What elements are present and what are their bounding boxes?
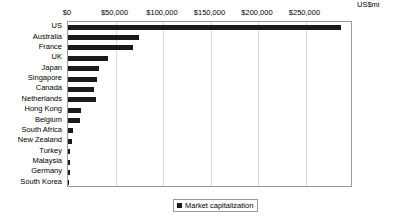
y-tick-label: US xyxy=(52,22,62,30)
bar-chart: $0$50,000$100,000$150,000$200,000$250,00… xyxy=(0,0,393,220)
legend-swatch-market-capitalization xyxy=(177,203,182,208)
y-tick-label: Australia xyxy=(33,33,62,41)
y-tick-label: Netherlands xyxy=(22,95,62,103)
x-tick-label: $150,000 xyxy=(194,8,225,18)
bar xyxy=(68,149,70,154)
chart-legend: Market capitalization xyxy=(173,199,258,212)
y-tick-label: Japan xyxy=(42,64,62,72)
x-tick-label: $100,000 xyxy=(146,8,177,18)
y-axis-category-labels: USAustraliaFranceUKJapanSingaporeCanadaN… xyxy=(0,21,64,187)
y-tick-label: Malaysia xyxy=(32,157,62,165)
x-axis-unit-label: US$mi xyxy=(357,0,380,10)
bar xyxy=(68,139,72,144)
y-tick-label: South Korea xyxy=(20,178,62,186)
bar xyxy=(68,118,80,123)
bars-layer xyxy=(68,22,351,186)
legend-label-market-capitalization: Market capitalization xyxy=(185,201,253,210)
y-tick-label: Hong Kong xyxy=(24,105,62,113)
bar xyxy=(68,97,96,102)
y-tick-label: Germany xyxy=(31,167,62,175)
bar xyxy=(68,45,133,50)
y-tick-label: Canada xyxy=(36,84,62,92)
x-axis-tick-labels: $0$50,000$100,000$150,000$200,000$250,00… xyxy=(0,8,393,20)
y-tick-label: France xyxy=(39,43,62,51)
y-tick-label: South Africa xyxy=(22,126,62,134)
bar xyxy=(68,35,139,40)
bar xyxy=(68,25,341,30)
bar xyxy=(68,56,108,61)
y-tick-label: Singapore xyxy=(28,74,62,82)
y-tick-label: UK xyxy=(52,53,62,61)
y-tick-label: New Zealand xyxy=(18,136,62,144)
x-tick-label: $250,000 xyxy=(289,8,320,18)
bar xyxy=(68,108,81,113)
bar xyxy=(68,66,99,71)
bar xyxy=(68,77,97,82)
y-tick-label: Belgium xyxy=(35,116,62,124)
x-tick-label: $50,000 xyxy=(101,8,128,18)
y-tick-label: Turkey xyxy=(39,147,62,155)
bar xyxy=(68,87,94,92)
x-tick-label: $0 xyxy=(63,8,71,18)
bar xyxy=(68,128,73,133)
bar xyxy=(68,180,69,185)
x-tick-label: $200,000 xyxy=(241,8,272,18)
bar xyxy=(68,160,70,165)
bar xyxy=(68,170,70,175)
plot-area xyxy=(67,21,352,187)
